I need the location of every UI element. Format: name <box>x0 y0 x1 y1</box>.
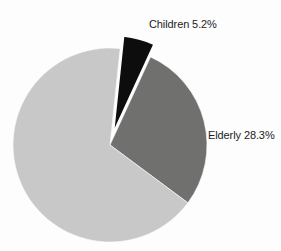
pie-chart-canvas <box>0 0 281 251</box>
slice-label-elderly: Elderly 28.3% <box>208 130 275 141</box>
pie-chart: Children 5.2% Elderly 28.3% <box>0 0 281 251</box>
slice-label-children: Children 5.2% <box>149 19 217 30</box>
pie-slices-group <box>13 36 207 242</box>
